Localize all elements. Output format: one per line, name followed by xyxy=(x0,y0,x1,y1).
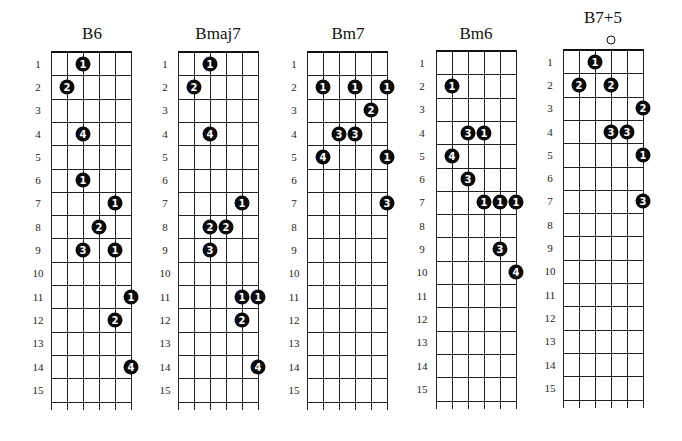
finger-dot: 3 xyxy=(636,194,651,209)
fret-line xyxy=(563,97,644,98)
fret-line xyxy=(563,236,644,237)
fret-line xyxy=(563,143,644,144)
fret-line xyxy=(563,190,644,191)
fret-number-label: 2 xyxy=(538,79,562,91)
fret-line xyxy=(563,120,644,121)
finger-dot: 1 xyxy=(588,54,603,69)
fret-line xyxy=(563,330,644,331)
fret-line xyxy=(563,400,644,401)
fret-number-label: 12 xyxy=(538,312,562,324)
string-line xyxy=(611,50,612,408)
fret-number-label: 5 xyxy=(538,149,562,161)
chord-title: B7+5 xyxy=(584,8,622,28)
string-line xyxy=(563,50,564,408)
fret-number-label: 1 xyxy=(538,56,562,68)
fret-line xyxy=(563,213,644,214)
fret-number-label: 10 xyxy=(538,265,562,277)
fret-line xyxy=(563,353,644,354)
open-string-icon xyxy=(607,36,616,45)
string-line xyxy=(579,50,580,408)
fret-number-label: 9 xyxy=(538,242,562,254)
finger-dot: 3 xyxy=(604,124,619,139)
fret-line xyxy=(563,167,644,168)
fret-number-label: 11 xyxy=(538,289,562,301)
chord-diagram-b7-5: B7+512345678910111213141512223313 xyxy=(0,0,682,441)
fret-number-label: 3 xyxy=(538,102,562,114)
fret-number-label: 7 xyxy=(538,195,562,207)
finger-dot: 2 xyxy=(636,101,651,116)
finger-dot: 2 xyxy=(572,77,587,92)
fret-number-label: 8 xyxy=(538,219,562,231)
finger-dot: 3 xyxy=(620,124,635,139)
finger-dot: 2 xyxy=(604,77,619,92)
string-line xyxy=(595,50,596,408)
fret-number-label: 15 xyxy=(538,382,562,394)
fret-line xyxy=(563,73,644,74)
nut-line xyxy=(563,49,644,51)
fret-number-label: 4 xyxy=(538,126,562,138)
fret-number-label: 6 xyxy=(538,172,562,184)
fret-line xyxy=(563,306,644,307)
fret-number-label: 13 xyxy=(538,335,562,347)
finger-dot: 1 xyxy=(636,147,651,162)
string-line xyxy=(627,50,628,408)
fret-line xyxy=(563,283,644,284)
fret-number-label: 14 xyxy=(538,359,562,371)
fret-line xyxy=(563,376,644,377)
fret-line xyxy=(563,260,644,261)
